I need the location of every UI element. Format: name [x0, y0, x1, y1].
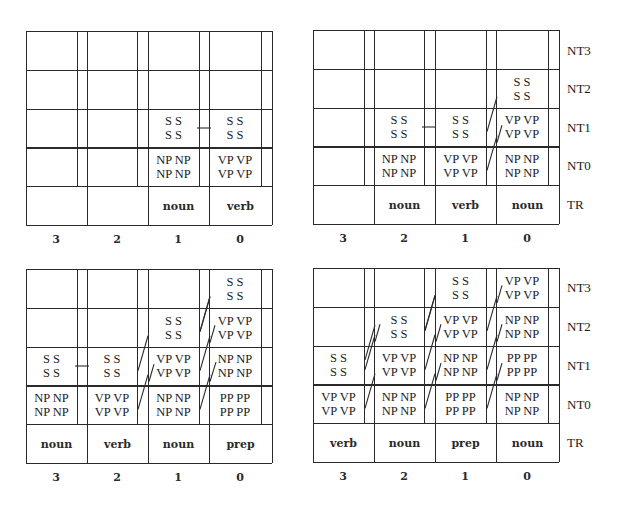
slash-connector [200, 375, 210, 410]
slash-connector [487, 97, 497, 132]
connector-marks [26, 31, 272, 225]
column-label-2: 2 [107, 233, 127, 246]
column-label-3: 3 [46, 471, 66, 484]
slash-connector [425, 374, 435, 409]
slash-connector [365, 374, 375, 409]
slash-connector [365, 325, 375, 360]
column-label-0: 0 [517, 470, 537, 483]
grid-border-line [272, 31, 273, 225]
slash-connector [200, 296, 210, 331]
grid-row-line [26, 463, 272, 464]
row-label-nt3: NT3 [567, 280, 591, 296]
slash-connector [436, 363, 441, 380]
connector-marks [313, 30, 559, 224]
column-label-3: 3 [333, 232, 353, 245]
column-label-2: 2 [107, 471, 127, 484]
panel-bottom-right: S S S SVP VP VP VPS S S SVP VP VP VPNP N… [313, 268, 559, 492]
slash-connector [425, 295, 435, 330]
slash-connector [436, 324, 441, 341]
slash-connector [375, 324, 380, 341]
slash-connector [497, 324, 502, 341]
slash-connector [425, 335, 435, 370]
panel-top-right: S S S SS S S SS S S SVP VP VP VPNP NP NP… [313, 30, 559, 254]
slash-connector [497, 285, 502, 302]
slash-connector [210, 362, 216, 381]
grid-row-line [313, 462, 559, 463]
column-label-2: 2 [394, 470, 414, 483]
slash-connector [149, 364, 154, 381]
grid-border-line [559, 30, 560, 224]
slash-connector [487, 296, 497, 331]
row-label-nt2: NT2 [567, 319, 591, 335]
grid-border-line [559, 268, 560, 462]
row-label-tr: TR [567, 435, 584, 451]
row-label-nt0: NT0 [567, 397, 591, 413]
slash-connector [365, 335, 375, 370]
slash-connector [138, 375, 148, 410]
slash-connector [497, 125, 502, 142]
slash-connector [200, 336, 210, 371]
row-label-nt0: NT0 [567, 158, 591, 174]
grid-row-line [26, 225, 272, 226]
row-label-nt1: NT1 [567, 120, 591, 136]
column-label-1: 1 [168, 471, 188, 484]
connector-marks [26, 269, 272, 463]
slash-connector [210, 325, 215, 342]
slash-connector [497, 363, 502, 380]
column-label-1: 1 [455, 232, 475, 245]
grid-border-line [272, 269, 273, 463]
connector-marks [313, 268, 559, 462]
column-label-1: 1 [168, 233, 188, 246]
slash-connector [138, 336, 148, 371]
grid-row-line [313, 224, 559, 225]
row-label-nt2: NT2 [567, 81, 591, 97]
row-label-nt3: NT3 [567, 43, 591, 59]
column-label-1: 1 [455, 470, 475, 483]
column-label-3: 3 [333, 470, 353, 483]
slash-connector [487, 136, 497, 171]
column-label-3: 3 [46, 233, 66, 246]
slash-connector [487, 374, 497, 409]
row-label-nt1: NT1 [567, 358, 591, 374]
column-label-0: 0 [517, 232, 537, 245]
panel-bottom-left: S S S SS S S SVP VP VP VPS S S SS S S SV… [26, 269, 272, 493]
column-label-0: 0 [230, 233, 250, 246]
column-label-2: 2 [394, 232, 414, 245]
slash-connector [487, 335, 497, 370]
panel-top-left: S S S SS S S SNP NP NP NPVP VP VP VPnoun… [26, 31, 272, 255]
column-label-0: 0 [230, 471, 250, 484]
row-label-tr: TR [567, 197, 584, 213]
